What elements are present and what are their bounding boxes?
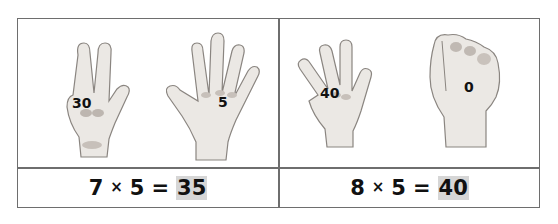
equals-sign: = xyxy=(413,176,431,200)
answer-highlight: 40 xyxy=(438,176,469,200)
multiplier: 5 xyxy=(130,176,145,200)
multiplication-worksheet-table: 30 5 40 xyxy=(17,18,540,208)
hands-cell-right: 40 0 xyxy=(280,19,539,167)
hand-value-label: 0 xyxy=(464,79,474,95)
equation-right: 8 × 5 = 40 xyxy=(280,169,539,207)
answer-highlight: 35 xyxy=(176,176,207,200)
open-palm-hand-icon xyxy=(166,21,266,167)
hand-value-label: 5 xyxy=(218,94,228,110)
three-fingers-hand-icon xyxy=(56,27,136,167)
hands-cell-left: 30 5 xyxy=(18,19,278,167)
hand-value-label: 40 xyxy=(320,85,339,101)
multiplicand: 7 xyxy=(89,176,104,200)
equals-sign: = xyxy=(151,176,169,200)
equation-left: 7 × 5 = 35 xyxy=(18,169,278,207)
hand-value-label: 30 xyxy=(72,95,91,111)
times-sign: × xyxy=(372,178,385,196)
multiplier: 5 xyxy=(391,176,406,200)
times-sign: × xyxy=(110,178,123,196)
multiplicand: 8 xyxy=(350,176,365,200)
